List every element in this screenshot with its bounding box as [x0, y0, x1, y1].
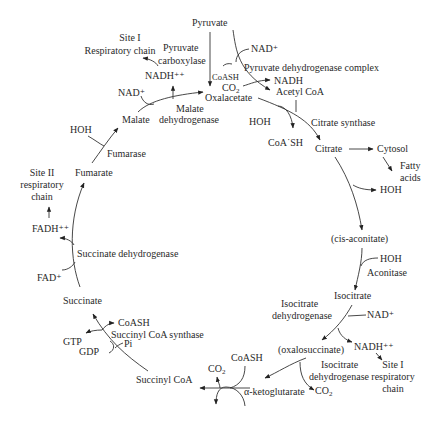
metabolite-acetyl-coa: Acetyl CoA	[276, 86, 325, 97]
enzyme-pyruvate-carboxylase-2: carboxylase	[158, 55, 206, 66]
cofactor-nadh-pdh: NADH	[274, 75, 303, 86]
enzyme-isocitrate-dh-1b: dehydrogenase	[272, 310, 333, 321]
enzyme-fumarase: Fumarase	[107, 148, 146, 159]
metabolite-succinyl-coa: Succinyl CoA	[136, 374, 193, 385]
enzyme-isocitrate-dh-2a: Isocitrate	[321, 359, 359, 370]
cofactor-hoh-fumarase: HOH	[70, 124, 92, 135]
cofactor-nadh-malate: NADH⁺⁺	[145, 70, 184, 81]
cofactor-hoh-aconitase: HOH	[380, 253, 402, 264]
site1-right-2: respiratory	[371, 371, 414, 382]
cofactor-coash-citrate: CoA˙SH	[268, 137, 303, 148]
enzyme-citrate-synthase: Citrate synthase	[311, 117, 376, 128]
cofactor-co2-isocitrate: CO2	[315, 385, 333, 398]
metabolite-fumarate: Fumarate	[75, 167, 113, 178]
enzyme-malate-dh-1: Malate	[176, 103, 204, 114]
cofactor-coash-succinyl: CoASH	[118, 317, 150, 328]
metabolite-alpha-ketoglutarate: α-ketoglutarate	[244, 386, 305, 397]
cofactor-coash-pdh: CoASH	[212, 72, 239, 82]
cofactor-co2-akg: CO2	[208, 363, 226, 376]
enzyme-isocitrate-dh-1a: Isocitrate	[281, 298, 319, 309]
cofactor-nad-pdh: NAD⁺	[251, 43, 278, 54]
krebs-cycle-diagram: Pyruvate Oxalacetate Acetyl CoA Citrate …	[0, 0, 444, 428]
site2-3: chain	[31, 191, 53, 202]
metabolite-oxalosuccinate: (oxalosuccinate)	[278, 344, 344, 356]
metabolite-succinate: Succinate	[63, 295, 102, 306]
cofactor-cytosol: Cytosol	[377, 143, 408, 154]
enzyme-aconitase: Aconitase	[367, 267, 408, 278]
cofactor-nad-malate: NAD⁺	[118, 87, 145, 98]
site1-left-2: Respiratory chain	[85, 45, 156, 56]
cofactor-gdp: GDP	[79, 346, 99, 357]
cofactor-hoh-citrate-synthase: HOH	[249, 116, 271, 127]
enzyme-malate-dh-2: dehydrogenase	[159, 114, 220, 125]
site1-right-3: chain	[382, 383, 404, 394]
cofactor-fad: FAD⁺	[37, 272, 62, 283]
enzyme-pyruvate-carboxylase-1: Pyruvate	[163, 42, 199, 53]
site1-right-1: Site I	[382, 359, 403, 370]
site1-left-1: Site I	[119, 32, 140, 43]
cofactor-hoh-out: HOH	[380, 184, 402, 195]
site2-2: respiratory	[20, 179, 63, 190]
cofactor-nadh-isocitrate: NADH⁺⁺	[354, 341, 393, 352]
site2-1: Site II	[30, 167, 55, 178]
metabolite-malate: Malate	[122, 114, 150, 125]
cofactor-pi: Pi	[124, 338, 133, 349]
cofactor-coash-akg: CoASH	[231, 352, 263, 363]
cofactor-nad-isocitrate: NAD⁺	[367, 309, 394, 320]
cofactor-fadh: FADH⁺⁺	[32, 223, 69, 234]
cofactor-fatty-2: acids	[400, 172, 421, 183]
metabolite-citrate: Citrate	[315, 143, 343, 154]
enzyme-succinate-dehydrogenase: Succinate dehydrogenase	[77, 248, 179, 259]
cofactor-fatty-1: Fatty	[400, 160, 421, 171]
metabolite-pyruvate: Pyruvate	[192, 17, 228, 28]
enzyme-isocitrate-dh-2b: dehydrogenase	[309, 371, 370, 382]
metabolite-cis-aconitate: (cis-aconitate)	[331, 233, 388, 245]
metabolite-oxalacetate: Oxalacetate	[205, 92, 253, 103]
metabolite-isocitrate: Isocitrate	[334, 290, 372, 301]
enzyme-pyruvate-dehydrogenase: Pyruvate dehydrogenase complex	[244, 62, 379, 73]
